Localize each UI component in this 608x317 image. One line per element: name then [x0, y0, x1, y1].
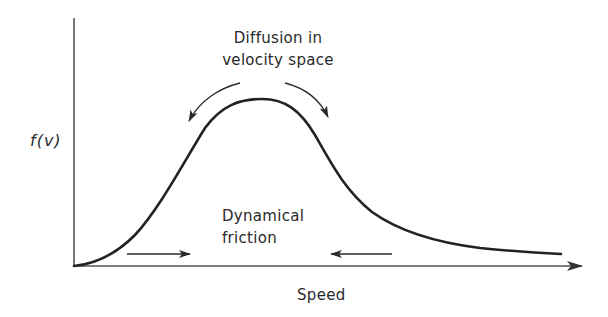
y-axis-label: f(v): [30, 131, 62, 150]
diffusion-right-arrow-icon: [285, 83, 328, 117]
diffusion-annotation: Diffusion in velocity space: [215, 29, 341, 70]
friction-line-1: Dynamical: [222, 207, 304, 226]
friction-annotation: Dynamical friction: [222, 207, 304, 248]
distribution-figure: f(v) Diffusion in velocity space Dynamic…: [0, 0, 608, 317]
diffusion-line-1: Diffusion in: [215, 29, 341, 48]
x-axis-label: Speed: [297, 286, 346, 305]
distribution-curve: [74, 99, 561, 266]
diffusion-line-2: velocity space: [215, 51, 341, 70]
friction-line-2: friction: [222, 229, 304, 248]
